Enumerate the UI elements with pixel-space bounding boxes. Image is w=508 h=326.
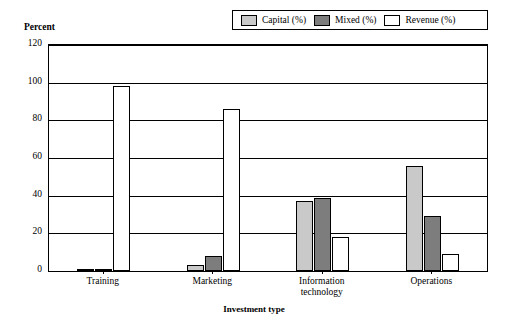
bar-mixed-0 xyxy=(95,269,112,271)
bar-revenue-1 xyxy=(223,109,240,271)
bar-capital-3 xyxy=(406,166,423,271)
legend-item-capital: Capital (%) xyxy=(241,15,306,26)
bar-capital-2 xyxy=(296,201,313,271)
x-axis-tick-label-1: Marketing xyxy=(162,276,262,287)
x-axis-title: Investment type xyxy=(0,304,508,314)
page-edge-artifact xyxy=(0,0,3,326)
chart-figure: Capital (%) Mixed (%) Revenue (%) Percen… xyxy=(0,0,508,326)
y-axis-tick-label: 0 xyxy=(4,264,42,274)
bar-capital-1 xyxy=(187,265,204,271)
legend-item-revenue: Revenue (%) xyxy=(384,15,455,26)
bar-revenue-3 xyxy=(442,254,459,271)
x-tick-line1: Information xyxy=(299,276,344,286)
legend-label-capital: Capital (%) xyxy=(262,15,306,25)
bar-mixed-2 xyxy=(314,198,331,271)
legend-label-mixed: Mixed (%) xyxy=(335,15,376,25)
y-axis-tick-label: 100 xyxy=(4,76,42,86)
y-axis-tick-label: 80 xyxy=(4,113,42,123)
bar-revenue-0 xyxy=(113,86,130,271)
legend-swatch-revenue xyxy=(384,15,400,26)
x-axis-tick-mark xyxy=(103,270,104,274)
x-axis-tick-mark xyxy=(322,270,323,274)
y-axis-tick-label: 20 xyxy=(4,226,42,236)
plot-area xyxy=(48,44,488,272)
legend-swatch-mixed xyxy=(314,15,330,26)
x-axis-tick-mark xyxy=(212,270,213,274)
gridline xyxy=(49,45,487,46)
x-axis-tick-mark xyxy=(431,270,432,274)
x-axis-tick-label-0: Training xyxy=(53,276,153,287)
y-axis-title: Percent xyxy=(24,22,55,32)
legend-item-mixed: Mixed (%) xyxy=(314,15,376,26)
x-tick-line1: Training xyxy=(87,276,119,286)
bar-mixed-1 xyxy=(205,256,222,271)
x-axis-tick-label-2: Informationtechnology xyxy=(272,276,372,298)
y-axis-tick-label: 60 xyxy=(4,151,42,161)
chart-legend: Capital (%) Mixed (%) Revenue (%) xyxy=(232,10,488,30)
bar-mixed-3 xyxy=(424,216,441,271)
x-axis-tick-label-3: Operations xyxy=(381,276,481,287)
y-axis-tick-label: 120 xyxy=(4,38,42,48)
bar-revenue-2 xyxy=(332,237,349,271)
y-axis-tick-label: 40 xyxy=(4,189,42,199)
legend-label-revenue: Revenue (%) xyxy=(405,15,455,25)
x-tick-line1: Operations xyxy=(410,276,452,286)
gridline xyxy=(49,83,487,84)
bar-capital-0 xyxy=(77,269,94,271)
legend-swatch-capital xyxy=(241,15,257,26)
x-tick-line2: technology xyxy=(301,287,343,297)
x-tick-line1: Marketing xyxy=(192,276,232,286)
